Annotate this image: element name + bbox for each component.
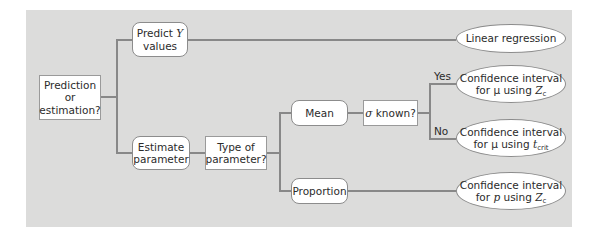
edge-label-no: No [434, 125, 448, 137]
edge-to-predict [116, 39, 132, 41]
node-estimate-parameter: Estimate parameter [132, 136, 190, 170]
edge-yes [429, 83, 456, 85]
edge-mean-sigma [348, 112, 363, 114]
node-ci-mu-t: Confidence interval for μ using tcrit [456, 119, 566, 157]
node-linear-regression: Linear regression [456, 24, 566, 53]
node-sigma-known: σ known? [363, 100, 418, 126]
edge-root-trunk [116, 39, 118, 154]
edge-label-yes: Yes [434, 70, 451, 82]
node-ci-p-z: Confidence interval for p using Zc [456, 172, 566, 210]
edge-to-estimate [116, 152, 132, 154]
edge-proportion-cip [348, 190, 456, 192]
node-prediction-or-estimation: Prediction or estimation? [39, 75, 101, 120]
node-proportion: Proportion [291, 178, 348, 204]
edge-no [429, 138, 456, 140]
node-mean: Mean [291, 100, 348, 126]
node-ci-mu-z: Confidence interval for μ using Zc [456, 65, 566, 103]
edge-estimate-type [190, 152, 205, 154]
edge-type-trunk [279, 112, 281, 192]
edge-sigma-trunk [429, 83, 431, 140]
edge-to-mean [279, 112, 291, 114]
edge-predict-linreg [188, 39, 456, 41]
node-predict-y-values: Predict Y values [132, 22, 188, 57]
node-type-of-parameter: Type of parameter? [205, 136, 267, 170]
edge-to-proportion [279, 190, 291, 192]
edge-root-out [101, 96, 117, 98]
